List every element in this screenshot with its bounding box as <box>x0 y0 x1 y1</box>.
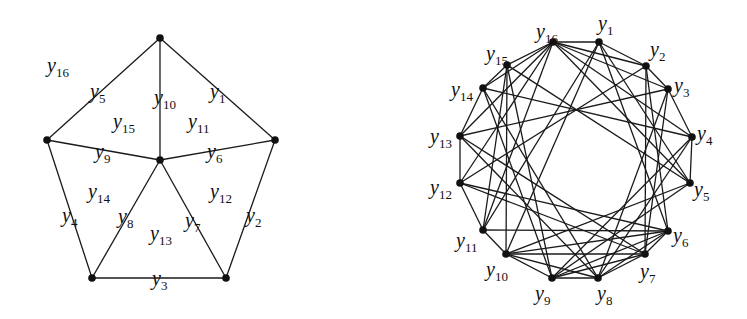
edge-label-y3: y3 <box>150 267 167 293</box>
right-edge-y5-y16 <box>553 42 690 183</box>
edge-label-y9: y9 <box>93 140 110 166</box>
right-vertex-y7 <box>641 250 649 258</box>
right-edge-y11-y15 <box>483 65 507 230</box>
right-vertices <box>456 38 696 282</box>
vertex-label-y4: y4 <box>695 122 713 148</box>
right-edge-y2-y3 <box>646 66 668 89</box>
right-edge-y6-y7 <box>645 231 668 254</box>
face-label-y11: y11 <box>186 110 209 136</box>
right-vertex-y4 <box>688 133 696 141</box>
vertex-label-y9: y9 <box>533 282 550 308</box>
right-edge-y6-y11 <box>483 230 668 231</box>
face-label-y13: y13 <box>148 222 172 248</box>
face-label-y15: y15 <box>111 110 135 136</box>
edge-label-y1: y1 <box>208 80 225 106</box>
edge-label-y5: y5 <box>88 80 105 106</box>
vertex-label-y7: y7 <box>638 260 656 286</box>
vertex-label-y1: y1 <box>596 12 613 38</box>
right-edge-y3-y7 <box>645 89 668 254</box>
right-edge-y8-y13 <box>460 136 598 278</box>
vertex-label-y12: y12 <box>428 176 452 202</box>
left-wheel-graph: y1y2y3y4y5y6y7y8y9y10y11y12y13y14y15y16 <box>43 34 279 293</box>
vertex-label-y13: y13 <box>428 125 452 151</box>
right-vertex-y6 <box>664 227 672 235</box>
left-vertex-BR <box>222 274 230 282</box>
figure-canvas: y1y2y3y4y5y6y7y8y9y10y11y12y13y14y15y16 … <box>0 0 747 319</box>
right-vertex-y5 <box>686 179 694 187</box>
edge-label-y6: y6 <box>205 140 223 166</box>
face-label-y16: y16 <box>45 54 69 80</box>
right-vertex-y13 <box>456 132 464 140</box>
vertex-label-y6: y6 <box>671 224 689 250</box>
right-vertex-y14 <box>479 84 487 92</box>
edge-label-y8: y8 <box>116 205 133 231</box>
edge-label-y10: y10 <box>152 86 176 112</box>
right-labels: y1y2y3y4y5y6y7y8y9y10y11y12y13y14y15y16 <box>428 12 713 308</box>
left-edge-y5 <box>47 38 160 140</box>
left-vertex-L <box>43 136 51 144</box>
edge-label-y4: y4 <box>60 204 78 230</box>
vertex-label-y14: y14 <box>449 78 473 104</box>
vertex-label-y11: y11 <box>454 229 477 255</box>
vertex-label-y10: y10 <box>484 258 508 284</box>
right-vertex-y8 <box>594 274 602 282</box>
left-vertex-C <box>156 156 164 164</box>
right-circular-graph: y1y2y3y4y5y6y7y8y9y10y11y12y13y14y15y16 <box>428 12 713 308</box>
vertex-label-y15: y15 <box>484 42 508 68</box>
right-edge-y10-y11 <box>483 230 506 254</box>
edge-label-y7: y7 <box>183 209 201 235</box>
left-labels: y1y2y3y4y5y6y7y8y9y10y11y12y13y14y15y16 <box>45 54 261 293</box>
right-edge-y4-y5 <box>690 137 692 183</box>
vertex-label-y3: y3 <box>672 74 689 100</box>
right-edge-y4-y14 <box>483 88 692 137</box>
vertex-label-y5: y5 <box>692 178 709 204</box>
vertex-label-y2: y2 <box>648 38 665 64</box>
right-vertex-y9 <box>548 274 556 282</box>
edge-label-y2: y2 <box>244 204 261 230</box>
right-edges <box>460 42 692 278</box>
right-vertex-y3 <box>664 85 672 93</box>
right-vertex-y12 <box>456 179 464 187</box>
left-vertex-BL <box>88 274 96 282</box>
face-label-y12: y12 <box>208 180 232 206</box>
right-vertex-y10 <box>502 250 510 258</box>
right-vertex-y11 <box>479 226 487 234</box>
left-vertex-R <box>271 136 279 144</box>
face-label-y14: y14 <box>86 180 110 206</box>
right-edge-y1-y6 <box>599 42 668 231</box>
right-edge-y14-y15 <box>483 65 507 88</box>
vertex-label-y8: y8 <box>595 282 612 308</box>
vertex-label-y16: y16 <box>534 20 558 46</box>
right-vertex-y1 <box>595 38 603 46</box>
right-vertex-y2 <box>642 62 650 70</box>
left-vertex-T <box>156 34 164 42</box>
